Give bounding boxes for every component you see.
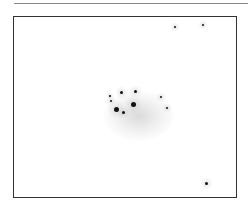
star <box>122 111 125 114</box>
top-rule <box>14 3 248 4</box>
star <box>174 26 176 28</box>
image-frame <box>13 16 237 198</box>
star <box>134 90 137 93</box>
star <box>120 91 123 94</box>
star <box>202 24 204 26</box>
star <box>205 182 208 185</box>
star <box>109 95 111 97</box>
star <box>131 102 136 107</box>
star <box>166 107 168 109</box>
star <box>160 96 162 98</box>
